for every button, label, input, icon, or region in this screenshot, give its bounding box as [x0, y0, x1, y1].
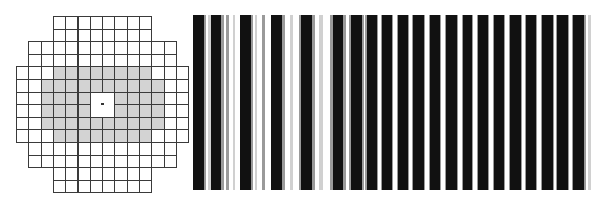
- grid-cell: [16, 117, 29, 131]
- grid-cell: [127, 129, 140, 143]
- grid-cell: [114, 41, 127, 55]
- grid-cell: [139, 29, 152, 43]
- grid-cell: [28, 79, 41, 93]
- grid-cell: [65, 54, 78, 68]
- black-stripe: [398, 15, 408, 190]
- grid-cell: [90, 41, 103, 55]
- grid-cell: [114, 29, 127, 43]
- grid-cell: [78, 92, 91, 106]
- grid-cell: [114, 92, 127, 106]
- grid-cell: [90, 29, 103, 43]
- grid-cell: [127, 66, 140, 80]
- grid-cell: [53, 142, 66, 156]
- grid-cell: [90, 142, 103, 156]
- gray-stripe: [488, 15, 489, 190]
- grid-cell: [102, 29, 115, 43]
- grid-cell: [127, 155, 140, 169]
- gray-stripe: [584, 15, 586, 190]
- gray-stripe: [251, 15, 253, 190]
- grid-cell: [53, 16, 66, 30]
- gray-stripe: [290, 15, 293, 190]
- grid-cell: [53, 129, 66, 143]
- grid-cell: [41, 41, 54, 55]
- gray-stripe: [588, 15, 591, 190]
- grid-cell: [41, 117, 54, 131]
- grid-cell: [28, 142, 41, 156]
- black-stripe: [271, 15, 282, 190]
- grid-cell: [102, 180, 115, 194]
- grid-cell: [114, 16, 127, 30]
- grid-cell: [139, 104, 152, 118]
- gray-stripe: [408, 15, 409, 190]
- black-stripe: [446, 15, 457, 190]
- grid-cell: [164, 117, 177, 131]
- gray-stripe: [536, 15, 537, 190]
- grid-cell: [53, 117, 66, 131]
- grid-cell: [151, 104, 164, 118]
- grid-cell: [65, 142, 78, 156]
- grid-cell: [164, 54, 177, 68]
- grid-cell: [78, 129, 91, 143]
- grid-cell: [114, 167, 127, 181]
- gray-stripe: [377, 15, 378, 190]
- black-stripe: [193, 15, 204, 190]
- grid-cell: [102, 155, 115, 169]
- grid-cell: [90, 117, 103, 131]
- grid-cell: [78, 41, 91, 55]
- grid-cell: [65, 41, 78, 55]
- grid-cell: [151, 41, 164, 55]
- grid-cell: [114, 104, 127, 118]
- grid-cell: [139, 79, 152, 93]
- black-stripe: [463, 15, 472, 190]
- gray-stripe: [319, 15, 323, 190]
- grid-cell: [53, 167, 66, 181]
- grid-cell: [114, 54, 127, 68]
- gray-stripe: [521, 15, 522, 190]
- grid-cell: [53, 41, 66, 55]
- grid-cell: [102, 66, 115, 80]
- gray-stripe: [262, 15, 265, 190]
- grid-cell: [139, 41, 152, 55]
- grid-cell: [78, 155, 91, 169]
- grid-cell: [90, 16, 103, 30]
- grid-cell: [114, 117, 127, 131]
- grid-cell: [114, 155, 127, 169]
- grid-cell: [28, 66, 41, 80]
- grid-cell: [176, 117, 189, 131]
- grid-cell: [90, 66, 103, 80]
- grid-cell: [164, 155, 177, 169]
- grid-cell: [151, 155, 164, 169]
- grid-cell: [90, 129, 103, 143]
- black-stripe: [510, 15, 521, 190]
- grid-cell: [53, 79, 66, 93]
- grid-cell: [28, 41, 41, 55]
- grid-cell: [78, 104, 91, 118]
- grid-cell: [139, 16, 152, 30]
- grid-cell: [65, 180, 78, 194]
- grid-cell: [28, 92, 41, 106]
- grid-cell: [102, 16, 115, 30]
- gray-stripe: [204, 15, 206, 190]
- gray-stripe: [472, 15, 473, 190]
- grid-cell: [164, 142, 177, 156]
- grid-cell: [114, 180, 127, 194]
- grid-cell: [16, 129, 29, 143]
- grid-cell: [90, 79, 103, 93]
- grid-cell: [151, 129, 164, 143]
- grid-cell: [78, 16, 91, 30]
- grid-cell: [176, 79, 189, 93]
- grid-cell: [41, 92, 54, 106]
- grid-cell: [53, 92, 66, 106]
- gray-stripe: [343, 15, 346, 190]
- grid-cell: [127, 54, 140, 68]
- grid-cell: [139, 54, 152, 68]
- grid-cell: [53, 54, 66, 68]
- grid-cell: [53, 104, 66, 118]
- grid-cell: [127, 104, 140, 118]
- grid-cell: [114, 66, 127, 80]
- grid-cell: [78, 180, 91, 194]
- gray-stripe: [312, 15, 315, 190]
- fixation-dot-icon: [101, 103, 104, 105]
- grid-cell: [53, 155, 66, 169]
- gray-stripe: [392, 15, 393, 190]
